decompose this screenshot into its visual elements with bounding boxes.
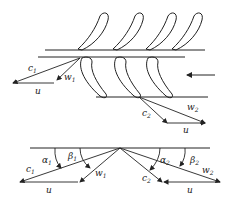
beta1-label: β1: [67, 151, 77, 162]
rotor-blade: [147, 57, 173, 98]
alpha1-arc: [55, 148, 61, 168]
c1-label: c1: [28, 63, 37, 74]
velocity-triangle-diagram: c1 w1 u c2 w2 u α1 β1 c1 w1 u α2 β2 c2 w…: [0, 0, 231, 198]
u-label-lower-left: u: [46, 185, 52, 195]
c2-vector-lower: [120, 148, 162, 182]
stator-blade: [113, 13, 143, 50]
u-label-lower-right: u: [187, 185, 193, 195]
c1-label-lower: c1: [26, 164, 35, 175]
c2-label: c2: [142, 108, 151, 119]
alpha1-label: α1: [42, 155, 52, 166]
beta2-label: β2: [189, 155, 199, 166]
beta2-arc: [180, 148, 185, 166]
stator-blades: [78, 13, 202, 50]
diagram-svg: c1 w1 u c2 w2 u α1 β1 c1 w1 u α2 β2 c2 w…: [0, 0, 231, 198]
u-label-inlet: u: [35, 86, 41, 96]
stator-blade: [78, 13, 108, 50]
u-label-outlet: u: [183, 125, 189, 135]
w2-label: w2: [187, 102, 199, 113]
stator-blade: [146, 13, 176, 50]
w1-label-lower: w1: [95, 168, 107, 179]
beta1-arc: [80, 148, 90, 168]
c2-label-lower: c2: [142, 173, 151, 184]
alpha2-label: α2: [160, 155, 170, 166]
rotor-blades: [81, 57, 173, 98]
rotor-blade: [115, 57, 141, 98]
w2-label-lower: w2: [202, 165, 214, 176]
w1-label: w1: [64, 72, 76, 83]
rotor-blade: [81, 57, 107, 98]
